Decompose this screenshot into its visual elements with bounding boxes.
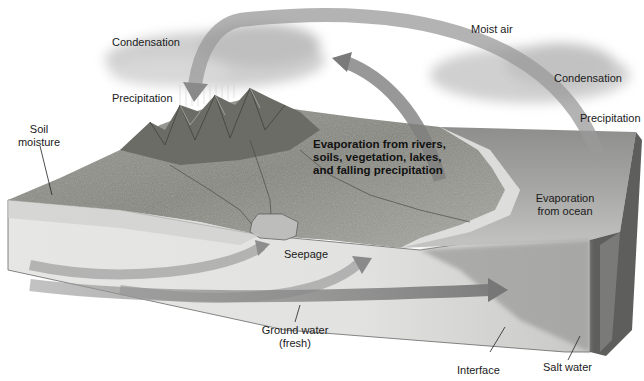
label-precipitation-left: Precipitation xyxy=(112,92,173,105)
label-soil-moisture: Soil moisture xyxy=(14,123,64,149)
label-groundwater-line2: (fresh) xyxy=(255,337,335,350)
label-precipitation-right: Precipitation xyxy=(580,112,641,125)
label-evaporation-ocean: Evaporation from ocean xyxy=(517,192,613,218)
label-seepage: Seepage xyxy=(284,248,328,261)
label-evaporation-ocean-line2: from ocean xyxy=(517,205,613,218)
label-soil-moisture-line2: moisture xyxy=(14,136,64,149)
label-evaporation-land-line1: Evaporation from rivers, xyxy=(313,138,446,151)
label-evaporation-land-line2: soils, vegetation, lakes, xyxy=(313,151,446,164)
label-groundwater-line1: Ground water xyxy=(255,324,335,337)
label-condensation-right: Condensation xyxy=(554,72,622,85)
label-salt-water: Salt water xyxy=(543,361,592,374)
label-evaporation-land: Evaporation from rivers, soils, vegetati… xyxy=(313,138,446,177)
label-groundwater: Ground water (fresh) xyxy=(255,324,335,350)
label-interface: Interface xyxy=(457,364,500,377)
hydrologic-cycle-diagram: Condensation Precipitation Soil moisture… xyxy=(0,0,644,381)
label-evaporation-ocean-line1: Evaporation xyxy=(517,192,613,205)
label-condensation-left: Condensation xyxy=(112,36,180,49)
label-soil-moisture-line1: Soil xyxy=(14,123,64,136)
label-moist-air: Moist air xyxy=(471,23,513,36)
label-evaporation-land-line3: and falling precipitation xyxy=(313,164,446,177)
